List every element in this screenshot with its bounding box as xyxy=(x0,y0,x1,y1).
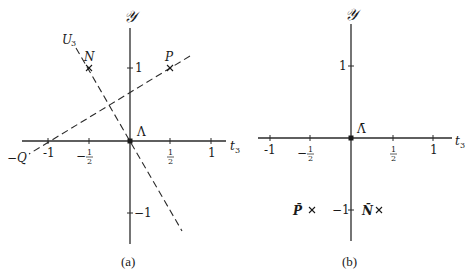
panel-a: 𝒴 t 3 Λ -1 − 1 2 1 2 1 1 −1 N P −Q U 3 (… xyxy=(7,7,240,269)
panel-a-xtick-label-neg1: -1 xyxy=(43,146,55,160)
panel-a-ytick-label-1: 1 xyxy=(135,61,143,75)
diagram-canvas: 𝒴 t 3 Λ -1 − 1 2 1 2 1 1 −1 N P −Q U 3 (… xyxy=(0,0,471,274)
panel-b-caption: (b) xyxy=(342,254,357,269)
panel-b-xtick-label-half-num: 1 xyxy=(391,145,396,154)
panel-b-x-axis-subscript: 3 xyxy=(460,141,465,150)
panel-b-point-label-Pbar: P̄ xyxy=(292,202,303,218)
panel-b-xtick-label-half-den: 2 xyxy=(391,154,396,163)
panel-a-line-PQ xyxy=(29,56,190,154)
panel-a-xtick-label-1: 1 xyxy=(208,146,216,160)
panel-a-line-label-U3-sub: 3 xyxy=(71,39,76,48)
panel-b-origin-label: Λ̄ xyxy=(356,122,366,136)
panel-a-xtick-label-half-den: 2 xyxy=(168,157,173,166)
panel-a-ytick-label-neg1: −1 xyxy=(134,206,152,220)
panel-b-ytick-label-1: 1 xyxy=(339,59,347,73)
panel-b-xtick-label-neghalf-sign: − xyxy=(297,146,307,160)
panel-a-xtick-label-neghalf-sign: − xyxy=(76,149,86,163)
panel-b-xtick-label-neghalf-den: 2 xyxy=(308,154,313,163)
panel-a-point-label-negQ: −Q xyxy=(7,151,27,165)
panel-a-caption: (a) xyxy=(121,254,135,269)
panel-b-xtick-label-neg1: -1 xyxy=(264,143,276,157)
panel-b-xtick-label-1: 1 xyxy=(430,143,438,157)
panel-a-x-axis-subscript: 3 xyxy=(235,146,240,155)
panel-b-xtick-label-neghalf-num: 1 xyxy=(308,145,313,154)
panel-b-marker-Pbar xyxy=(309,207,315,213)
panel-b-y-axis-label: 𝒴 xyxy=(345,5,362,24)
panel-a-point-label-P: P xyxy=(164,50,174,64)
panel-a-point-label-N: N xyxy=(83,50,95,64)
panel-b-origin-dot xyxy=(349,136,354,141)
panel-b: 𝒴 t 3 Λ̄ -1 − 1 2 1 2 1 1 −1 P̄ N̄ (b) xyxy=(258,5,465,269)
panel-a-marker-P xyxy=(167,65,173,71)
panel-a-origin-label: Λ xyxy=(136,125,146,139)
panel-a-xtick-label-neghalf-num: 1 xyxy=(87,148,92,157)
panel-b-ytick-label-neg1: −1 xyxy=(332,203,350,217)
panel-b-point-label-Nbar: N̄ xyxy=(361,202,374,218)
panel-a-y-axis-label: 𝒴 xyxy=(124,7,141,26)
panel-a-xtick-label-half-num: 1 xyxy=(168,148,173,157)
panel-a-xtick-label-neghalf-den: 2 xyxy=(87,157,92,166)
panel-a-origin-dot xyxy=(128,139,133,144)
panel-b-marker-Nbar xyxy=(376,207,382,213)
